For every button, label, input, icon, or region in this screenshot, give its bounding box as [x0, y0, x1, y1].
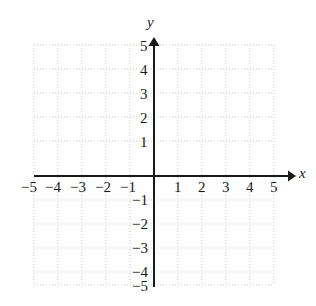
x-tick-label: 5	[270, 180, 278, 195]
coordinate-plane-svg	[0, 0, 316, 306]
x-tick-label: 1	[174, 180, 182, 195]
y-tick-label: −1	[132, 193, 148, 208]
x-tick-label: −5	[21, 180, 37, 195]
y-tick-label: 3	[140, 87, 148, 102]
coordinate-plane-figure: x y −5 −4 −3 −2 −1 1 2 3 4 5 5 4 3 2 1 −…	[0, 0, 316, 306]
y-axis	[149, 37, 160, 287]
x-axis-label: x	[299, 166, 306, 181]
x-tick-label: 3	[222, 180, 230, 195]
y-tick-label: −5	[132, 279, 148, 294]
y-tick-label: 4	[140, 63, 148, 78]
x-tick-label: −2	[95, 180, 111, 195]
x-tick-label: −3	[70, 180, 86, 195]
y-tick-label: −2	[132, 217, 148, 232]
x-axis-arrow-icon	[288, 171, 296, 182]
y-axis-label: y	[147, 15, 154, 30]
y-tick-label: 1	[140, 135, 148, 150]
x-tick-label: −4	[45, 180, 61, 195]
x-tick-label: 4	[246, 180, 254, 195]
y-tick-label: −3	[132, 241, 148, 256]
x-tick-label: 2	[198, 180, 206, 195]
y-axis-arrow-icon	[149, 37, 160, 46]
y-tick-label: 2	[140, 111, 148, 126]
y-tick-label: 5	[140, 39, 148, 54]
